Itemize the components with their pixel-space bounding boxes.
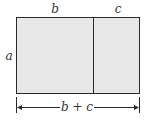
rect-region-b	[17, 18, 94, 94]
label-a: a	[5, 49, 12, 63]
arrowhead-right-icon	[134, 105, 139, 110]
area-diagram: b c a b + c	[0, 0, 146, 120]
label-b: b	[51, 2, 59, 16]
label-b-plus-c: b + c	[61, 100, 93, 114]
rect-region-c	[94, 18, 140, 94]
arrowhead-left-icon	[17, 105, 22, 110]
label-c: c	[115, 2, 122, 16]
